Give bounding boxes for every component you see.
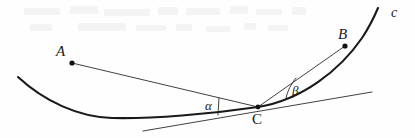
segment-c-to-b	[258, 46, 345, 107]
geometry-figure: A B C c α β	[0, 0, 415, 138]
point-marker-c	[256, 105, 261, 110]
segment-c-to-a	[72, 63, 258, 107]
label-angle-alpha: α	[205, 99, 212, 112]
label-point-a: A	[56, 44, 65, 59]
label-angle-beta: β	[292, 84, 298, 97]
point-marker-b	[342, 43, 347, 48]
label-point-b: B	[338, 27, 347, 42]
label-point-c: C	[252, 112, 262, 127]
point-marker-a	[69, 60, 74, 65]
label-curve-c: c	[391, 6, 397, 20]
diagram-canvas	[0, 0, 415, 138]
